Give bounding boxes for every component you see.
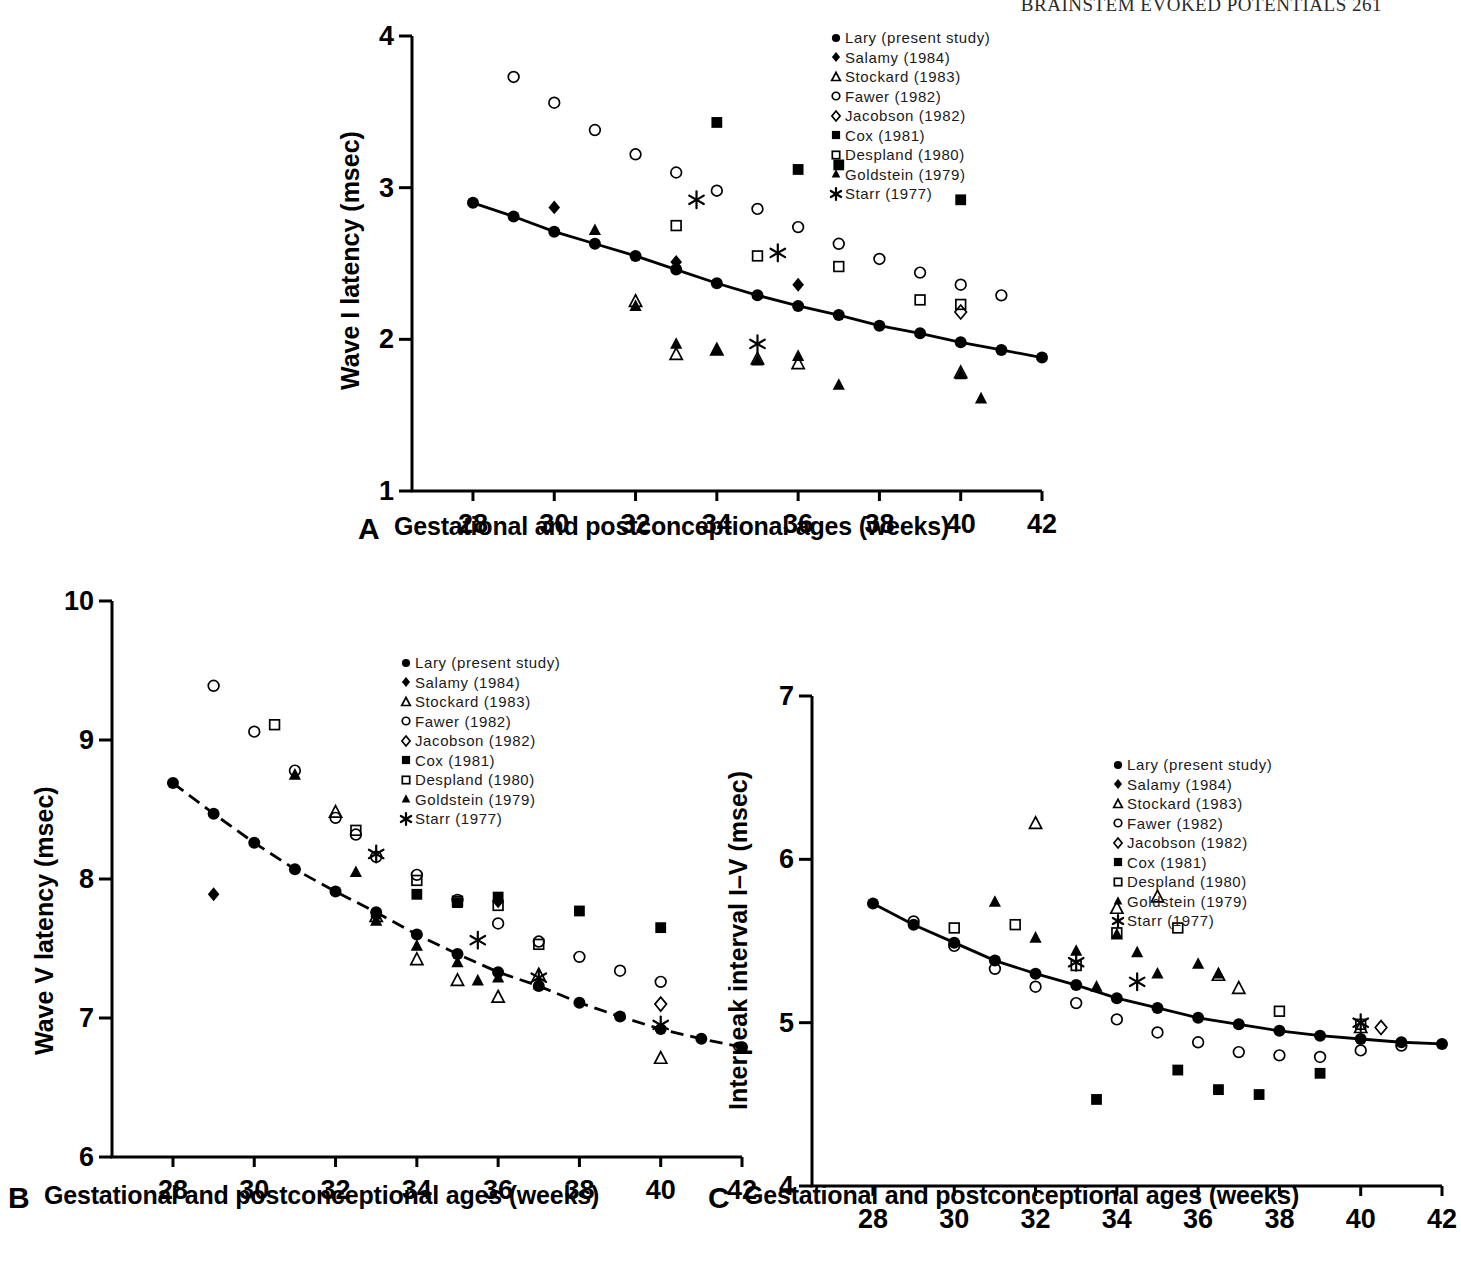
legend-item-label: Cox (1981) xyxy=(845,126,925,146)
y-tick-label: 6 xyxy=(64,1142,94,1173)
legend-item: Stockard (1983) xyxy=(398,692,560,712)
marker-filled-circle xyxy=(833,309,845,321)
y-tick-label: 9 xyxy=(64,725,94,756)
legend-item: Cox (1981) xyxy=(828,126,990,146)
marker-open-circle xyxy=(533,936,544,947)
legend-item: Fawer (1982) xyxy=(398,712,560,732)
legend-item: Lary (present study) xyxy=(1110,755,1272,775)
marker-open-circle xyxy=(574,952,585,963)
marker-open-circle xyxy=(590,125,601,136)
marker-filled-circle xyxy=(208,808,220,820)
marker-filled-triangle xyxy=(792,349,804,361)
marker-open-triangle xyxy=(1029,817,1041,829)
marker-asterisk xyxy=(1130,973,1145,990)
marker-filled-circle xyxy=(548,226,560,238)
marker-open-square xyxy=(402,776,409,783)
legend-item: Stockard (1983) xyxy=(828,67,990,87)
marker-filled-circle xyxy=(289,863,301,875)
legend-item: Lary (present study) xyxy=(398,653,560,673)
marker-filled-circle xyxy=(1030,968,1042,980)
marker-filled-square xyxy=(1172,1065,1183,1076)
marker-filled-square xyxy=(1114,858,1122,866)
x-axis-title: Gestational and postconceptional ages (w… xyxy=(744,1181,1299,1210)
legend-item: Jacobson (1982) xyxy=(828,106,990,126)
y-tick-label: 10 xyxy=(64,586,94,617)
y-tick-label: 3 xyxy=(364,172,394,203)
marker-open-circle xyxy=(508,72,519,83)
plot-area-c xyxy=(700,680,1461,1196)
y-tick-label: 1 xyxy=(364,476,394,507)
legend-item: Despland (1980) xyxy=(828,145,990,165)
marker-filled-diamond xyxy=(1114,779,1122,789)
marker-filled-circle xyxy=(867,897,879,909)
marker-open-circle xyxy=(1114,819,1122,827)
marker-open-circle xyxy=(630,149,641,160)
legend-item-label: Goldstein (1979) xyxy=(415,790,536,810)
legend-item-label: Stockard (1983) xyxy=(845,67,961,87)
x-axis-title: Gestational and postconceptional ages (w… xyxy=(44,1181,599,1210)
marker-open-square xyxy=(949,923,959,933)
legend-item: Cox (1981) xyxy=(398,751,560,771)
legend-item: Fawer (1982) xyxy=(828,87,990,107)
marker-filled-circle xyxy=(1036,352,1048,364)
marker-open-circle xyxy=(402,717,410,725)
marker-open-diamond xyxy=(1114,838,1122,848)
marker-open-circle xyxy=(793,222,804,233)
panel-a: 12342830323436384042Wave I latency (msec… xyxy=(300,20,1064,501)
marker-open-circle xyxy=(671,167,682,178)
series-jacobson xyxy=(1375,1021,1387,1035)
legend-item-label: Lary (present study) xyxy=(1127,755,1272,775)
open-diamond-icon xyxy=(398,733,415,749)
marker-open-circle xyxy=(1315,1052,1326,1063)
marker-open-circle xyxy=(1030,981,1041,992)
marker-filled-triangle xyxy=(1090,980,1102,992)
open-diamond-icon xyxy=(828,108,845,124)
legend-item-label: Jacobson (1982) xyxy=(845,106,966,126)
marker-filled-circle xyxy=(1436,1038,1448,1050)
marker-open-triangle xyxy=(411,953,423,965)
open-circle-icon xyxy=(1110,815,1127,831)
plot-area-b xyxy=(0,585,764,1167)
marker-filled-diamond xyxy=(208,887,220,901)
marker-open-circle xyxy=(712,185,723,196)
marker-asterisk xyxy=(689,191,704,208)
x-tick-label: 42 xyxy=(1427,1204,1457,1235)
marker-open-circle xyxy=(1071,998,1082,1009)
marker-filled-triangle xyxy=(411,939,423,951)
marker-filled-square xyxy=(574,906,585,917)
marker-open-triangle xyxy=(670,348,682,360)
marker-filled-circle xyxy=(330,886,342,898)
marker-open-square xyxy=(832,151,839,158)
legend-item-label: Lary (present study) xyxy=(845,28,990,48)
marker-open-square xyxy=(1010,920,1020,930)
running-head: BRAINSTEM EVOKED POTENTIALS 261 xyxy=(0,0,1396,16)
marker-filled-triangle xyxy=(1192,957,1204,969)
legend-item: Despland (1980) xyxy=(398,770,560,790)
filled-square-icon xyxy=(828,127,845,143)
asterisk-icon xyxy=(828,186,845,202)
marker-open-diamond xyxy=(655,997,667,1011)
marker-filled-triangle xyxy=(350,865,362,877)
marker-open-triangle xyxy=(655,1052,667,1064)
marker-filled-circle xyxy=(751,289,763,301)
y-tick-label: 8 xyxy=(64,864,94,895)
marker-open-triangle xyxy=(492,990,504,1002)
marker-asterisk xyxy=(401,813,411,825)
marker-filled-circle xyxy=(1355,1033,1367,1045)
marker-filled-square xyxy=(711,117,722,128)
y-tick-label: 7 xyxy=(64,1003,94,1034)
marker-open-circle xyxy=(955,279,966,290)
marker-filled-circle xyxy=(573,997,585,1009)
marker-filled-circle xyxy=(1151,1002,1163,1014)
marker-filled-circle xyxy=(1233,1018,1245,1030)
series-salamy xyxy=(548,200,803,291)
legend-item-label: Fawer (1982) xyxy=(845,87,941,107)
open-diamond-icon xyxy=(1110,835,1127,851)
open-circle-icon xyxy=(828,88,845,104)
legend-item: Salamy (1984) xyxy=(1110,775,1272,795)
marker-open-circle xyxy=(493,918,504,929)
series-fawer xyxy=(908,916,1406,1062)
marker-filled-circle xyxy=(914,327,926,339)
legend-item: Fawer (1982) xyxy=(1110,814,1272,834)
panel-letter-a: A xyxy=(358,512,380,546)
